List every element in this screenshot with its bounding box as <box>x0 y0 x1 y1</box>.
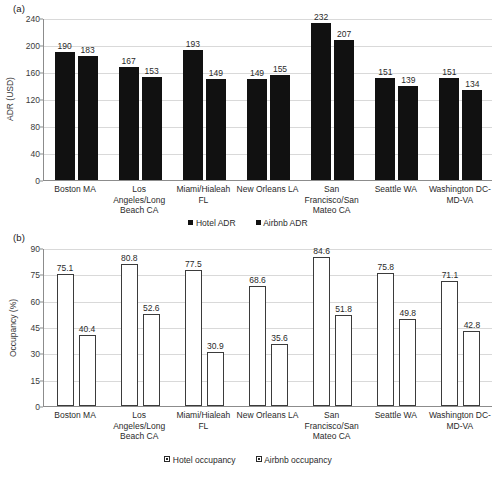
panel-b-y-tick-marks <box>0 249 44 407</box>
bar-value-label: 68.6 <box>242 276 274 285</box>
panel-b-tag: (b) <box>13 232 25 243</box>
panel-a-y-tick-marks <box>0 19 44 181</box>
bar-value-label: 75.8 <box>370 263 402 272</box>
gridline <box>44 46 492 47</box>
legend-swatch-icon <box>256 220 261 225</box>
bar <box>247 79 267 180</box>
bar <box>142 77 162 180</box>
bar-value-label: 193 <box>177 40 209 49</box>
category-label: Boston MA <box>39 184 111 195</box>
bar-value-label: 149 <box>200 69 232 78</box>
bar-value-label: 42.8 <box>456 321 488 330</box>
figure-container: (a) ADR (USD) 04080120160200240 19018316… <box>0 0 496 487</box>
bar <box>463 331 480 406</box>
legend-swatch-icon <box>256 456 262 462</box>
bar-value-label: 77.5 <box>177 260 209 269</box>
gridline <box>44 328 492 329</box>
bar-value-label: 151 <box>433 68 465 77</box>
gridline <box>44 100 492 101</box>
bar <box>399 319 416 406</box>
chart-panel-b: (b) Occupancy (%) 0153045607590 75.140.4… <box>0 228 496 487</box>
category-label: LosAngeles/LongBeach CA <box>103 184 175 216</box>
bar-value-label: 71.1 <box>434 271 466 280</box>
bar <box>270 75 290 180</box>
bar-value-label: 80.8 <box>113 254 145 263</box>
bar <box>55 52 75 180</box>
bar-value-label: 30.9 <box>199 342 231 351</box>
bar-value-label: 51.8 <box>328 305 360 314</box>
legend-label: Hotel occupancy <box>173 455 236 465</box>
category-label: Miami/HialeahFL <box>167 184 239 205</box>
bar-value-label: 183 <box>72 46 104 55</box>
category-label: Boston MA <box>39 410 111 421</box>
category-label: Washington DC-MD-VA <box>424 410 496 431</box>
bar-value-label: 134 <box>456 80 488 89</box>
bar-value-label: 153 <box>136 67 168 76</box>
bar <box>439 78 459 180</box>
bar-value-label: 35.6 <box>264 334 296 343</box>
legend-label: Airbnb occupancy <box>264 455 332 465</box>
panel-a-legend: Hotel ADRAirbnb ADR <box>0 217 496 228</box>
bar <box>121 264 138 406</box>
bar <box>398 86 418 180</box>
legend-label: Hotel ADR <box>196 218 236 228</box>
category-label: SanFrancisco/SanMateo CA <box>296 410 368 442</box>
legend-swatch-icon <box>164 456 170 462</box>
bar <box>462 90 482 180</box>
gridline <box>44 249 492 250</box>
bar-value-label: 52.6 <box>135 304 167 313</box>
panel-b-legend: Hotel occupancyAirbnb occupancy <box>0 454 496 465</box>
bar <box>143 314 160 406</box>
bar <box>334 40 354 180</box>
category-label: SanFrancisco/SanMateo CA <box>296 184 368 216</box>
bar <box>78 56 98 180</box>
gridline <box>44 19 492 20</box>
bar <box>375 78 395 180</box>
bar <box>313 257 330 406</box>
category-label: Seattle WA <box>360 410 432 421</box>
bar-value-label: 75.1 <box>49 264 81 273</box>
bar <box>335 315 352 406</box>
legend-label: Airbnb ADR <box>263 218 307 228</box>
legend-item: Airbnb occupancy <box>256 454 332 465</box>
panel-a-plot-area: 1901831671531931491491552322071511391511… <box>43 19 492 181</box>
legend-item: Hotel occupancy <box>164 454 235 465</box>
bar <box>249 286 266 406</box>
bar <box>206 79 226 180</box>
bar <box>271 344 288 406</box>
bar <box>377 273 394 406</box>
bar-value-label: 40.4 <box>71 325 103 334</box>
bar <box>311 23 331 180</box>
bar <box>441 281 458 406</box>
bar <box>207 352 224 406</box>
bar-value-label: 49.8 <box>392 309 424 318</box>
bar <box>79 335 96 406</box>
bar-value-label: 167 <box>113 57 145 66</box>
gridline <box>44 154 492 155</box>
bar <box>185 270 202 406</box>
legend-item: Hotel ADR <box>188 217 235 228</box>
category-label: Seattle WA <box>360 184 432 195</box>
bar-value-label: 207 <box>328 30 360 39</box>
gridline <box>44 354 492 355</box>
bar <box>119 67 139 180</box>
bar-value-label: 84.6 <box>306 247 338 256</box>
panel-a-tag: (a) <box>13 3 25 14</box>
bar-value-label: 155 <box>264 65 296 74</box>
legend-item: Airbnb ADR <box>256 217 308 228</box>
gridline <box>44 127 492 128</box>
category-label: LosAngeles/LongBeach CA <box>103 410 175 442</box>
category-label: Washington DC-MD-VA <box>424 184 496 205</box>
bar <box>57 274 74 406</box>
bar-value-label: 232 <box>305 13 337 22</box>
bar-value-label: 139 <box>392 76 424 85</box>
category-label: New Orleans LA <box>231 410 303 421</box>
chart-panel-a: (a) ADR (USD) 04080120160200240 19018316… <box>0 0 496 228</box>
category-label: New Orleans LA <box>231 184 303 195</box>
panel-b-plot-area: 75.140.480.852.677.530.968.635.684.651.8… <box>43 249 492 407</box>
gridline <box>44 381 492 382</box>
gridline <box>44 302 492 303</box>
legend-swatch-icon <box>188 220 193 225</box>
category-label: Miami/HialeahFL <box>167 410 239 431</box>
